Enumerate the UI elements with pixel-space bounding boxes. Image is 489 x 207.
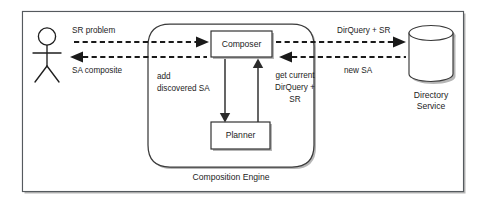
new-sa-label: new SA	[344, 66, 373, 75]
dirquery-sr-label: DirQuery + SR	[337, 26, 391, 35]
planner-node[interactable]: Planner	[211, 122, 272, 151]
get-current-dirquery-sr-label-line1: get current	[275, 71, 315, 80]
composer-label: Composer	[222, 39, 262, 49]
get-current-dirquery-sr-label-line2: DirQuery +	[275, 83, 315, 92]
get-current-dirquery-sr-label-line3: SR	[289, 95, 300, 104]
add-discovered-sa-label-line1: add	[157, 72, 171, 81]
sa-composite-label: SA composite	[72, 66, 123, 75]
planner-label: Planner	[226, 130, 256, 140]
directory-service-label-line2: Service	[417, 101, 446, 111]
composition-engine-diagram: Composer Planner Directory Service SR pr…	[0, 0, 489, 207]
sr-problem-label: SR problem	[72, 26, 115, 35]
add-discovered-sa-label-line2: discovered SA	[157, 84, 210, 93]
composition-engine-label: Composition Engine	[193, 172, 270, 182]
composer-node[interactable]: Composer	[211, 31, 274, 59]
diagram-canvas: Composer Planner Directory Service SR pr…	[0, 0, 489, 207]
directory-service-label-line1: Directory	[414, 90, 449, 100]
